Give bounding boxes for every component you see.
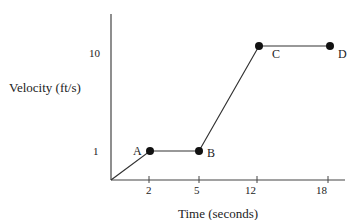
x-tick-label-12: 12 (245, 184, 256, 196)
x-axis-title: Time (seconds) (178, 206, 258, 220)
point-label-a: A (133, 144, 142, 158)
y-tick-label-1: 1 (93, 145, 99, 157)
point-label-d: D (338, 47, 347, 61)
velocity-time-chart: 2 5 12 18 10 1 Velocity (ft/s) Time (sec… (0, 0, 356, 220)
x-tick-label-5: 5 (194, 184, 200, 196)
x-tick-label-18: 18 (316, 184, 328, 196)
x-tick-label-2: 2 (146, 184, 152, 196)
point-label-b: B (207, 146, 215, 160)
point-a (146, 147, 154, 155)
point-b (195, 147, 203, 155)
point-c (255, 42, 263, 50)
point-label-c: C (272, 47, 280, 61)
velocity-line (111, 46, 330, 180)
point-d (326, 42, 334, 50)
y-tick-label-10: 10 (89, 47, 101, 59)
y-axis-title: Velocity (ft/s) (9, 80, 81, 95)
